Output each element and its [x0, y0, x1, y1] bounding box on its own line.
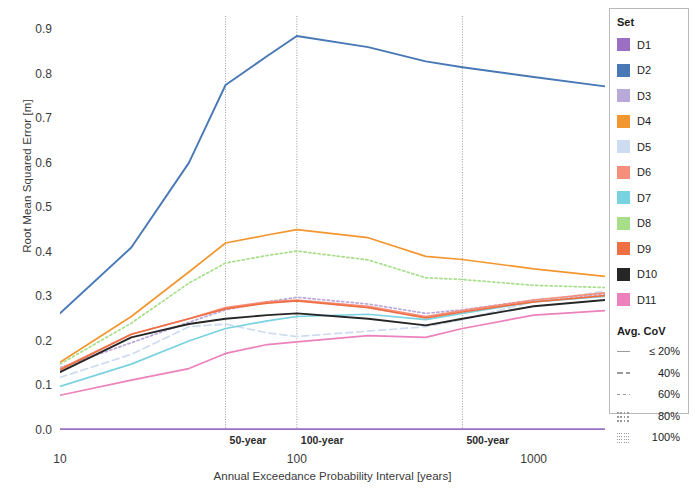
- legend-dash-pattern-icon: [617, 366, 630, 379]
- y-tick-label: 0.7: [6, 111, 52, 125]
- x-tick-label: 100: [287, 452, 307, 466]
- legend-cov-item[interactable]: 40%: [617, 362, 682, 384]
- chart-figure: Root Mean Squared Error [m] 0.00.10.20.3…: [0, 0, 695, 495]
- legend-cov-label: 100%: [652, 431, 682, 443]
- reference-line-label: 100-year: [301, 434, 344, 446]
- legend-swatch-icon: [617, 115, 630, 128]
- legend-item-label: D1: [637, 39, 651, 51]
- legend-cov-item[interactable]: 60%: [617, 384, 682, 406]
- legend-swatch-icon: [617, 64, 630, 77]
- y-tick-label: 0.6: [6, 156, 52, 170]
- y-tick-label: 0.4: [6, 245, 52, 259]
- y-axis-ticks: 0.00.10.20.30.40.50.60.70.80.9: [0, 0, 52, 495]
- series-line-d2: [60, 36, 605, 313]
- legend-item-label: D4: [637, 115, 651, 127]
- legend-cov-label: 40%: [658, 367, 682, 379]
- series-line-d9: [60, 296, 605, 370]
- legend-cov-item[interactable]: 80%: [617, 405, 682, 427]
- legend-item-label: D3: [637, 90, 651, 102]
- legend-cov-item[interactable]: ≤ 20%: [617, 341, 682, 363]
- reference-line-label: 500-year: [466, 434, 509, 446]
- legend-item-d10[interactable]: D10: [617, 262, 682, 288]
- legend-swatch-icon: [617, 242, 630, 255]
- legend-item-d4[interactable]: D4: [617, 109, 682, 135]
- legend-swatch-icon: [617, 268, 630, 281]
- y-tick-label: 0.3: [6, 289, 52, 303]
- legend-swatch-icon: [617, 217, 630, 230]
- series-line-d7: [60, 296, 605, 386]
- legend-cov-label: 60%: [658, 388, 682, 400]
- legend-dash-pattern-icon: [617, 409, 630, 422]
- legend-dash-pattern-icon: [617, 431, 630, 444]
- legend-cov-list: ≤ 20%40%60%80%100%: [617, 341, 682, 449]
- legend-item-label: D2: [637, 64, 651, 76]
- legend-swatch-icon: [617, 191, 630, 204]
- legend-item-d7[interactable]: D7: [617, 185, 682, 211]
- legend-title-set: Set: [617, 16, 682, 28]
- series-canvas: [60, 16, 605, 430]
- legend-item-label: D5: [637, 141, 651, 153]
- plot-area: [60, 16, 605, 430]
- y-tick-label: 0.5: [6, 200, 52, 214]
- x-axis-label: Annual Exceedance Probability Interval […: [60, 470, 605, 482]
- legend-item-label: D9: [637, 243, 651, 255]
- legend-dash-pattern-icon: [617, 345, 630, 358]
- x-tick-label: 1000: [520, 452, 547, 466]
- legend-cov-label: ≤ 20%: [649, 345, 682, 357]
- legend-item-d6[interactable]: D6: [617, 160, 682, 186]
- x-tick-label: 10: [53, 452, 66, 466]
- legend-item-d3[interactable]: D3: [617, 83, 682, 109]
- y-tick-label: 0.8: [6, 67, 52, 81]
- y-tick-label: 0.0: [6, 423, 52, 437]
- legend-item-d1[interactable]: D1: [617, 32, 682, 58]
- legend-title-cov: Avg. CoV: [617, 325, 682, 337]
- legend-cov-label: 80%: [658, 410, 682, 422]
- legend-item-label: D6: [637, 166, 651, 178]
- legend-swatch-icon: [617, 140, 630, 153]
- legend-item-d9[interactable]: D9: [617, 236, 682, 262]
- legend-panel: Set D1D2D3D4D5D6D7D8D9D10D11 Avg. CoV ≤ …: [609, 8, 689, 414]
- legend-swatch-icon: [617, 89, 630, 102]
- legend-item-d5[interactable]: D5: [617, 134, 682, 160]
- legend-dash-pattern-icon: [617, 388, 630, 401]
- y-tick-label: 0.2: [6, 334, 52, 348]
- legend-swatch-icon: [617, 293, 630, 306]
- legend-cov-item[interactable]: 100%: [617, 427, 682, 449]
- legend-item-d11[interactable]: D11: [617, 287, 682, 313]
- legend-item-label: D7: [637, 192, 651, 204]
- legend-item-label: D10: [637, 268, 657, 280]
- legend-item-label: D11: [637, 294, 656, 306]
- legend-set-list: D1D2D3D4D5D6D7D8D9D10D11: [617, 32, 682, 313]
- legend-item-d2[interactable]: D2: [617, 58, 682, 84]
- legend-swatch-icon: [617, 166, 630, 179]
- reference-line-label: 50-year: [230, 434, 267, 446]
- series-line-d10: [60, 300, 605, 372]
- series-line-d4: [60, 230, 605, 363]
- legend-swatch-icon: [617, 38, 630, 51]
- y-tick-label: 0.1: [6, 378, 52, 392]
- series-line-d11: [60, 311, 605, 396]
- y-tick-label: 0.9: [6, 22, 52, 36]
- legend-item-d8[interactable]: D8: [617, 211, 682, 237]
- legend-item-label: D8: [637, 217, 651, 229]
